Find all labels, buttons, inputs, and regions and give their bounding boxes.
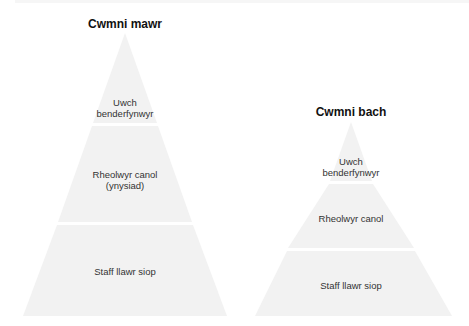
pyramid-shape	[0, 0, 469, 326]
label-line: Uwch	[322, 156, 379, 167]
label-line: Staff llawr siop	[320, 280, 382, 291]
tier-label-senior: Uwch benderfynwyr	[322, 156, 379, 178]
label-line: benderfynwyr	[322, 167, 379, 178]
label-line: Rheolwyr canol	[319, 213, 384, 224]
tier-label-shopfloor: Staff llawr siop	[320, 280, 382, 291]
tier-label-middle: Rheolwyr canol	[319, 213, 384, 224]
